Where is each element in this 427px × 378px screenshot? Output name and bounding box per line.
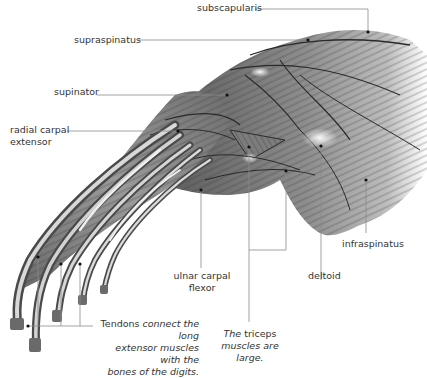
label-supraspinatus: supraspinatus — [74, 34, 141, 46]
caption-tendons-line2: extensor muscles with the — [97, 342, 199, 366]
caption-triceps-word: triceps — [244, 328, 276, 339]
label-radial-carpal-extensor-line1: radial carpal — [10, 124, 69, 136]
caption-tendons-line1: Tendons connect the long — [97, 318, 199, 342]
caption-tendons: Tendons connect the long extensor muscle… — [97, 318, 199, 378]
label-deltoid: deltoid — [308, 270, 341, 282]
label-ulnar-carpal-flexor-line1: ulnar carpal — [172, 270, 232, 282]
caption-triceps-line2: muscles are large. — [210, 340, 290, 364]
label-supinator: supinator — [54, 86, 99, 98]
caption-triceps-prefix: The — [223, 328, 241, 339]
label-ulnar-carpal-flexor: ulnar carpal flexor — [172, 270, 232, 294]
label-ulnar-carpal-flexor-line2: flexor — [172, 282, 232, 294]
caption-tendons-bold: Tendons — [101, 318, 140, 329]
label-infraspinatus: infraspinatus — [342, 238, 404, 250]
label-radial-carpal-extensor: radial carpal extensor — [10, 124, 69, 148]
caption-tendons-line3: bones of the digits. — [97, 366, 199, 378]
caption-triceps: The triceps muscles are large. — [210, 328, 290, 364]
caption-tendons-line1-rest: connect the long — [143, 318, 199, 341]
label-radial-carpal-extensor-line2: extensor — [10, 136, 69, 148]
label-subscapularis: subscapularis — [197, 2, 262, 14]
caption-triceps-line1: The triceps — [210, 328, 290, 340]
